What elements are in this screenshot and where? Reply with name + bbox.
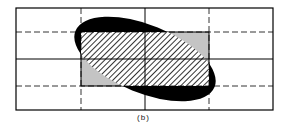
figure-diagram [0,0,287,128]
figure-caption: (b) [0,113,287,122]
solid-grid-lines [16,8,273,110]
